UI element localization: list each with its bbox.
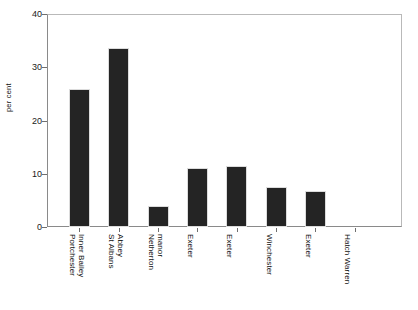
x-tick-label-line: Inner Bailey [77, 234, 86, 277]
x-tick-label-line: Netherton [147, 234, 156, 270]
y-tick-mark [42, 67, 47, 68]
x-tick-mark [79, 228, 80, 232]
x-tick-label-line: Abbey [116, 234, 125, 257]
x-tick-label-line: Portchester [68, 234, 77, 276]
x-tick-mark [158, 228, 159, 232]
x-tick-label-line: Winchester [265, 234, 274, 275]
x-tick-mark [315, 228, 316, 232]
y-tick-label: 20 [22, 116, 42, 126]
bars-layer [48, 14, 402, 227]
x-axis-tick-labels: PortchesterInner BaileySt AlbansAbbeyNet… [48, 234, 402, 310]
x-tick-mark [119, 228, 120, 232]
bar [69, 89, 90, 227]
bar [305, 191, 326, 227]
x-tick-label-line: manor [156, 234, 165, 257]
x-tick-mark [355, 228, 356, 232]
y-tick-label: 40 [22, 9, 42, 19]
y-axis-title: per cent [4, 52, 13, 112]
x-tick-mark [237, 228, 238, 232]
bar [226, 166, 247, 227]
bar [266, 187, 287, 227]
bar-chart: per cent 010203040 PortchesterInner Bail… [0, 0, 418, 310]
y-tick-label: 0 [22, 222, 42, 232]
x-tick-label-line: Exeter [186, 234, 195, 258]
x-tick-label-line: Exeter [304, 234, 313, 258]
bar [108, 48, 129, 227]
y-axis-tick-labels: 010203040 [20, 0, 42, 310]
bar [148, 206, 169, 227]
y-tick-mark [42, 121, 47, 122]
x-tick-mark [276, 228, 277, 232]
x-tick-mark [197, 228, 198, 232]
y-tick-label: 10 [22, 169, 42, 179]
y-tick-mark [42, 227, 47, 228]
y-tick-mark [42, 14, 47, 15]
y-tick-label: 30 [22, 62, 42, 72]
x-tick-label-line: Exeter [225, 234, 234, 258]
y-tick-mark [42, 174, 47, 175]
x-tick-label-line: St Albans [107, 234, 116, 269]
bar [187, 168, 208, 227]
x-tick-label-line: Hatch Warren [343, 234, 352, 284]
